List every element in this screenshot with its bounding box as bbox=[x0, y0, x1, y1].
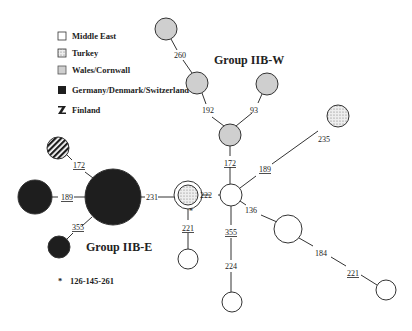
edge-label-136: 136 bbox=[245, 206, 257, 215]
node-germany-main bbox=[85, 169, 141, 225]
edge-label-189-b: 189 bbox=[61, 193, 73, 202]
edge-label-224: 224 bbox=[225, 262, 237, 271]
edge-label-189-a: 189 bbox=[259, 165, 271, 174]
legend-label-finland: Finland bbox=[72, 105, 101, 115]
node-turkey-2 bbox=[327, 105, 349, 127]
star-marker: * bbox=[189, 207, 193, 216]
edge-label-235: 235 bbox=[318, 135, 330, 144]
footnote-text: 126-145-261 bbox=[70, 276, 114, 286]
edge-label-221-b: 221 bbox=[182, 224, 194, 233]
haplotype-network: Middle East Turkey Wales/Cornwall German… bbox=[0, 0, 412, 331]
node-germany-3 bbox=[48, 236, 70, 258]
edge-label-260: 260 bbox=[174, 51, 186, 60]
legend-label-turkey: Turkey bbox=[72, 48, 99, 58]
node-wales-1 bbox=[155, 18, 177, 40]
legend-label-middle-east: Middle East bbox=[72, 31, 116, 41]
edge-label-355-a: 355 bbox=[225, 228, 237, 237]
edge-label-231: 231 bbox=[146, 193, 158, 202]
legend-swatch-turkey bbox=[58, 49, 66, 57]
edge-label-172-a: 172 bbox=[224, 159, 236, 168]
node-middle-east-1 bbox=[274, 215, 302, 243]
edges bbox=[52, 39, 377, 292]
node-hub-middle-east bbox=[220, 184, 242, 206]
legend-label-germany: Germany/Denmark/Switzerland bbox=[72, 85, 189, 95]
footnote-marker: * bbox=[58, 276, 62, 286]
edge-label-222: 222 bbox=[200, 191, 212, 200]
node-middle-east-2 bbox=[376, 280, 396, 300]
edge-label-355-b: 355 bbox=[72, 223, 84, 232]
node-middle-east-4 bbox=[178, 249, 198, 269]
edge-label-192: 192 bbox=[202, 106, 214, 115]
edge-label-93: 93 bbox=[250, 106, 258, 115]
node-middle-east-3 bbox=[222, 292, 242, 312]
node-wales-2 bbox=[186, 72, 208, 94]
node-germany-2 bbox=[18, 180, 52, 214]
node-wales-3 bbox=[256, 73, 278, 95]
legend-label-wales-cornwall: Wales/Cornwall bbox=[72, 65, 131, 75]
legend: Middle East Turkey Wales/Cornwall German… bbox=[58, 31, 189, 115]
node-finland bbox=[47, 137, 69, 159]
node-wales-4 bbox=[219, 124, 241, 146]
node-turkey-inner bbox=[178, 185, 198, 205]
legend-swatch-germany bbox=[58, 86, 66, 94]
edge-label-172-b: 172 bbox=[73, 161, 85, 170]
edge-label-184: 184 bbox=[315, 249, 327, 258]
legend-swatch-finland bbox=[58, 106, 66, 114]
edge-label-221-a: 221 bbox=[347, 269, 359, 278]
group-label-iib-e: Group IIB-E bbox=[86, 240, 152, 254]
legend-swatch-wales-cornwall bbox=[58, 66, 66, 74]
group-label-iib-w: Group IIB-W bbox=[214, 53, 284, 67]
legend-swatch-middle-east bbox=[58, 32, 66, 40]
